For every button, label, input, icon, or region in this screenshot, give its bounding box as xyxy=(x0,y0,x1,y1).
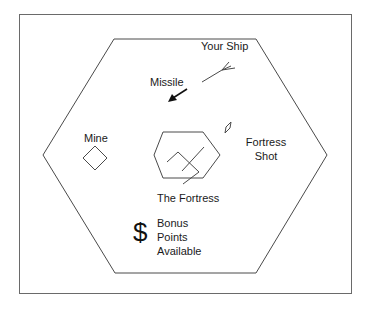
fortress-shot-label-line1: Fortress xyxy=(243,135,289,149)
mine-label: Mine xyxy=(84,131,108,145)
ship-icon xyxy=(202,62,235,82)
bonus-label-line1: Bonus xyxy=(157,216,201,230)
mine-icon xyxy=(83,146,107,170)
bonus-dollar-icon: $ xyxy=(133,219,147,245)
fortress-hexagon xyxy=(154,132,220,178)
fortress-shot-label-line2: Shot xyxy=(243,149,289,163)
fortress-label: The Fortress xyxy=(157,191,219,205)
your-ship-label: Your Ship xyxy=(201,39,248,53)
missile-icon xyxy=(168,89,187,102)
bonus-label-line2: Points xyxy=(157,230,201,244)
fortress-shot-label: Fortress Shot xyxy=(243,135,289,163)
missile-label: Missile xyxy=(150,75,184,89)
game-scene xyxy=(0,0,374,312)
bonus-label-line3: Available xyxy=(157,244,201,258)
bonus-label: Bonus Points Available xyxy=(157,216,201,258)
fortress-shot-icon xyxy=(225,122,231,133)
